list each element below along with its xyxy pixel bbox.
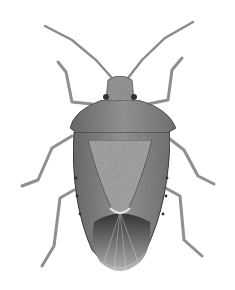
right-antenna [128, 22, 193, 78]
left-antenna [45, 26, 112, 78]
left-front-leg [58, 62, 92, 104]
right-eye [131, 94, 137, 100]
insect-illustration: stink bug (shield bug) scientific illust… [0, 0, 235, 290]
left-eye [103, 94, 109, 100]
left-hind-leg [42, 190, 74, 266]
wing-membrane [93, 214, 150, 272]
right-middle-leg [166, 136, 214, 184]
right-hind-leg [162, 186, 202, 256]
right-front-leg [148, 58, 182, 104]
stink-bug-drawing [0, 0, 235, 290]
left-middle-leg [22, 136, 72, 186]
